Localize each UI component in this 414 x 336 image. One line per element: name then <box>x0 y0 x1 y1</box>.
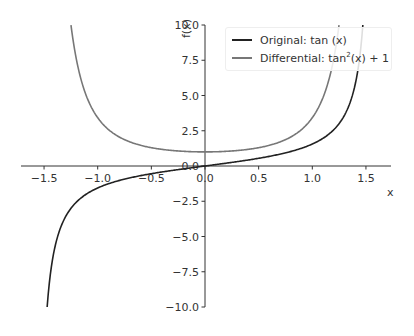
y-tick-label: −7.5 <box>172 266 199 279</box>
y-axis-label: f(x) <box>180 19 193 38</box>
legend: Original: tan (x) Differential: tan2(x) … <box>225 27 392 71</box>
x-tick-label: 0.5 <box>250 172 268 185</box>
legend-label-differential: Differential: tan2(x) + 1 <box>260 51 389 65</box>
x-tick-label: 0.0 <box>196 172 214 185</box>
legend-item-original: Original: tan (x) <box>232 32 347 48</box>
legend-swatch-original <box>232 39 252 41</box>
legend-label-original: Original: tan (x) <box>260 34 347 47</box>
y-tick-label: −2.5 <box>172 195 199 208</box>
x-tick-label: 1.0 <box>304 172 322 185</box>
y-tick-label: 7.5 <box>182 54 200 67</box>
y-tick-label: 5.0 <box>182 90 200 103</box>
x-axis-label: x <box>387 186 394 199</box>
legend-item-differential: Differential: tan2(x) + 1 <box>232 50 389 66</box>
y-tick-label: 2.5 <box>182 125 200 138</box>
y-tick-label: −10.0 <box>165 301 199 314</box>
x-tick-label: −1.5 <box>31 172 58 185</box>
legend-swatch-differential <box>232 57 252 59</box>
x-tick-label: 1.5 <box>357 172 375 185</box>
x-tick-label: −1.0 <box>84 172 111 185</box>
y-tick-label: −5.0 <box>172 231 199 244</box>
